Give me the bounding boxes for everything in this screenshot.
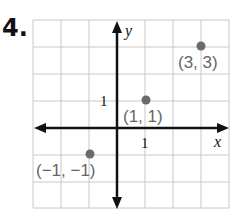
x-axis-left-arrow-icon: [34, 123, 46, 133]
y-axis-up-arrow-icon: [112, 21, 122, 33]
coordinate-plane: y x 1 1 (3, 3) (1, 1) (−1, −1): [0, 0, 249, 215]
x-axis-label: x: [213, 133, 221, 150]
x-tick-1: 1: [141, 135, 149, 151]
y-tick-1: 1: [100, 93, 108, 109]
point-1-1: [142, 96, 151, 105]
x-axis-right-arrow-icon: [217, 123, 229, 133]
point-label-neg1-neg1: (−1, −1): [36, 161, 96, 180]
point-label-3-3: (3, 3): [178, 53, 218, 72]
point-label-1-1: (1, 1): [123, 107, 163, 126]
point-3-3: [197, 42, 206, 51]
y-axis-label: y: [123, 22, 133, 40]
point-neg1-neg1: [86, 150, 95, 159]
y-axis-down-arrow-icon: [112, 197, 122, 209]
